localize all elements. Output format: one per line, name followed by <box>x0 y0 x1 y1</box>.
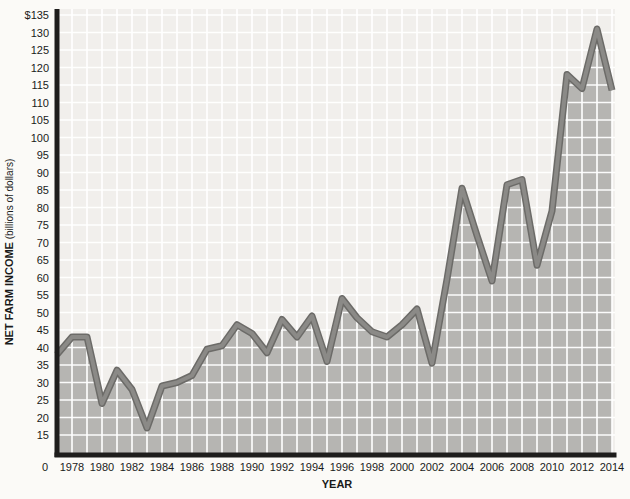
y-tick-label: 15 <box>37 429 49 441</box>
x-tick-label: 2002 <box>420 461 444 473</box>
y-tick-label: 65 <box>37 254 49 266</box>
x-axis-tick-labels: 0197819801982198419861988199019921994199… <box>42 461 624 473</box>
y-tick-label: 70 <box>37 237 49 249</box>
y-tick-label: 85 <box>37 184 49 196</box>
y-tick-label: 35 <box>37 359 49 371</box>
x-tick-label: 2000 <box>390 461 414 473</box>
x-tick-label: 1998 <box>360 461 384 473</box>
y-axis-title-main: NET FARM INCOME <box>3 242 15 345</box>
y-tick-label: 110 <box>31 97 49 109</box>
x-tick-label: 2008 <box>510 461 534 473</box>
x-tick-label: 2004 <box>450 461 474 473</box>
x-tick-label: 2012 <box>570 461 594 473</box>
y-axis-title-sub: (billions of dollars) <box>4 159 15 242</box>
net-farm-income-area-chart: 1520253035404550556065707580859095100105… <box>0 0 630 499</box>
y-axis-title: NET FARM INCOME (billions of dollars) <box>3 159 15 346</box>
x-axis-title: YEAR <box>322 478 353 490</box>
y-tick-label: 120 <box>31 62 49 74</box>
y-tick-label: $135 <box>25 9 49 21</box>
y-tick-label: 50 <box>37 307 49 319</box>
y-tick-label: 80 <box>37 202 49 214</box>
x-tick-label: 1992 <box>270 461 294 473</box>
x-tick-label: 1996 <box>330 461 354 473</box>
x-tick-label: 2010 <box>540 461 564 473</box>
y-tick-label: 55 <box>37 289 49 301</box>
y-tick-label: 100 <box>31 132 49 144</box>
x-tick-label: 1988 <box>210 461 234 473</box>
y-tick-label: 40 <box>37 342 49 354</box>
y-tick-label: 130 <box>31 27 49 39</box>
x-tick-label: 1980 <box>90 461 114 473</box>
x-tick-label: 1994 <box>300 461 324 473</box>
x-tick-label: 2014 <box>600 461 624 473</box>
y-tick-label: 90 <box>37 167 49 179</box>
y-tick-label: 125 <box>31 44 49 56</box>
x-tick-label: 1978 <box>60 461 84 473</box>
y-tick-label: 20 <box>37 412 49 424</box>
x-tick-label: 1982 <box>120 461 144 473</box>
origin-label: 0 <box>42 461 48 473</box>
y-tick-label: 60 <box>37 272 49 284</box>
x-tick-label: 1984 <box>150 461 174 473</box>
y-tick-label: 75 <box>37 219 49 231</box>
y-tick-label: 115 <box>31 79 49 91</box>
y-tick-label: 95 <box>37 149 49 161</box>
y-tick-label: 45 <box>37 324 49 336</box>
x-tick-label: 1986 <box>180 461 204 473</box>
y-axis-tick-labels: 1520253035404550556065707580859095100105… <box>25 9 49 441</box>
x-tick-label: 2006 <box>480 461 504 473</box>
chart-canvas: 1520253035404550556065707580859095100105… <box>0 0 630 499</box>
y-tick-label: 105 <box>31 114 49 126</box>
y-tick-label: 30 <box>37 377 49 389</box>
y-tick-label: 25 <box>37 394 49 406</box>
x-tick-label: 1990 <box>240 461 264 473</box>
